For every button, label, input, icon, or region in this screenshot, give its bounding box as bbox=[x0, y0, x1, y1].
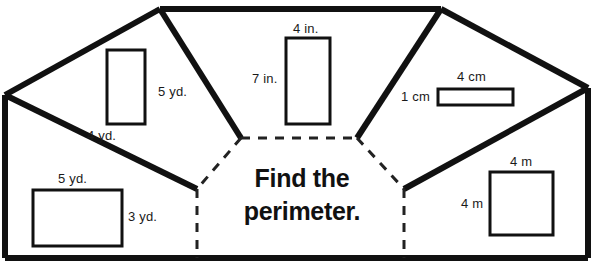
prompt-line-2: perimeter. bbox=[212, 195, 392, 228]
figure-square-4m bbox=[490, 172, 553, 235]
prompt-line-1: Find the bbox=[212, 162, 392, 195]
label-figure2-width: 4 in. bbox=[293, 22, 319, 35]
label-figure5-width: 4 m bbox=[510, 155, 532, 168]
perimeter-worksheet: 5 yd. 4 yd. 4 in. 7 in. 4 cm 1 cm 5 yd. … bbox=[0, 0, 592, 262]
spoke-top-left bbox=[160, 9, 241, 138]
figure-rect-4cm-1cm bbox=[438, 89, 513, 105]
label-figure2-height: 7 in. bbox=[252, 72, 278, 85]
figure-rect-7in-4in bbox=[286, 38, 330, 124]
label-figure4-height: 3 yd. bbox=[128, 210, 157, 223]
figure-rect-5yd-4yd bbox=[107, 50, 145, 124]
label-figure3-height: 1 cm bbox=[401, 90, 430, 103]
label-figure5-height: 4 m bbox=[461, 197, 483, 210]
label-figure1-height: 5 yd. bbox=[158, 85, 187, 98]
figure-rect-5yd-3yd bbox=[33, 190, 122, 246]
label-figure4-width: 5 yd. bbox=[58, 172, 87, 185]
center-prompt: Find the perimeter. bbox=[212, 162, 392, 228]
label-figure3-width: 4 cm bbox=[457, 70, 486, 83]
spoke-top-right bbox=[357, 9, 441, 138]
label-figure1-width: 4 yd. bbox=[87, 129, 116, 142]
